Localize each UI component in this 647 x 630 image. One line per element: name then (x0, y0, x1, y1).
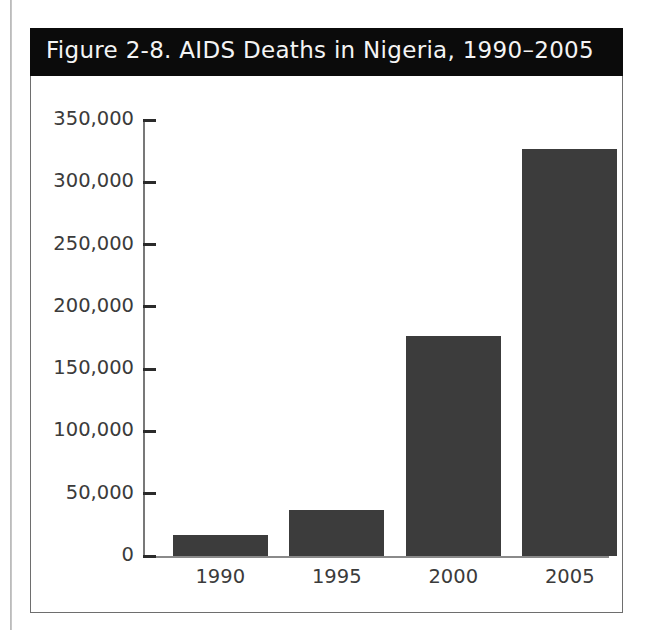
bar-2005 (522, 149, 617, 556)
y-axis-tick (143, 368, 156, 371)
x-axis-tick-label: 2000 (406, 565, 501, 588)
y-axis-tick (143, 555, 156, 558)
page-edge-line (10, 0, 12, 630)
y-axis-tick (143, 305, 156, 308)
y-axis-tick (143, 181, 156, 184)
y-axis-tick-label: 50,000 (30, 481, 134, 504)
y-axis-tick-label: 0 (30, 543, 134, 566)
y-axis-tick (143, 243, 156, 246)
page-title: Figure 2-8. AIDS Deaths in Nigeria, 1990… (46, 37, 594, 63)
bar-2000 (406, 336, 501, 556)
y-axis-tick-label: 150,000 (30, 356, 134, 379)
y-axis-tick-label: 300,000 (30, 169, 134, 192)
y-axis-tick-label: 250,000 (30, 232, 134, 255)
y-axis-tick-label: 200,000 (30, 294, 134, 317)
chart-canvas: 350,000300,000250,000200,000150,000100,0… (30, 76, 623, 613)
x-axis-tick-label: 1995 (289, 565, 384, 588)
y-axis-tick (143, 119, 156, 122)
y-axis-tick (143, 492, 156, 495)
y-axis-tick (143, 430, 156, 433)
bar-1990 (173, 535, 268, 556)
y-axis-tick-label: 100,000 (30, 418, 134, 441)
plot-area: 350,000300,000250,000200,000150,000100,0… (30, 76, 623, 613)
figure-title-band: Figure 2-8. AIDS Deaths in Nigeria, 1990… (30, 28, 623, 76)
bar-1995 (289, 510, 384, 556)
x-axis-tick-label: 1990 (173, 565, 268, 588)
x-axis-line (143, 556, 609, 558)
figure-screenshot: Figure 2-8. AIDS Deaths in Nigeria, 1990… (0, 0, 647, 630)
x-axis-tick-label: 2005 (522, 565, 617, 588)
y-axis-tick-label: 350,000 (30, 107, 134, 130)
